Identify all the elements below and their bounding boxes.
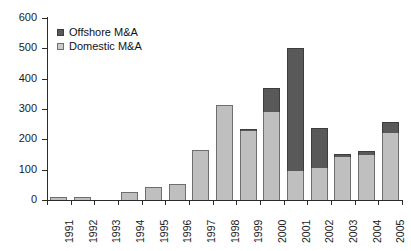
x-axis-tick (284, 201, 285, 205)
y-axis-label: 0 (0, 194, 37, 205)
bar-segment-offshore (382, 122, 399, 133)
x-axis-label-1998: 1998 (230, 220, 241, 243)
x-axis-label-1991: 1991 (64, 220, 75, 243)
bar-1995 (145, 187, 162, 200)
bar-segment-domestic (382, 133, 399, 200)
bar-1992 (74, 197, 91, 200)
bar-segment-domestic (311, 168, 328, 200)
bar-2002 (311, 128, 328, 200)
x-axis-label-2002: 2002 (324, 220, 335, 243)
x-axis-tick (236, 201, 237, 205)
x-axis-tick (47, 201, 48, 205)
legend-label-domestic: Domestic M&A (69, 41, 142, 52)
bar-2004 (358, 151, 375, 200)
bar-segment-domestic (192, 150, 209, 200)
x-axis-tick (260, 201, 261, 205)
x-axis-tick (118, 201, 119, 205)
x-axis-label-2004: 2004 (372, 220, 383, 243)
x-axis-label-1993: 1993 (111, 220, 122, 243)
bar-segment-offshore (311, 128, 328, 168)
legend-label-offshore: Offshore M&A (69, 27, 138, 38)
x-axis-line (47, 200, 403, 201)
bar-1991 (50, 197, 67, 200)
x-axis-tick (355, 201, 356, 205)
x-axis-label-1995: 1995 (159, 220, 170, 243)
x-axis-tick (165, 201, 166, 205)
bar-segment-domestic (74, 197, 91, 200)
bar-segment-domestic (145, 187, 162, 200)
bar-segment-domestic (240, 131, 257, 200)
x-axis-label-1997: 1997 (206, 220, 217, 243)
bar-1994 (121, 192, 138, 200)
bar-segment-domestic (121, 192, 138, 200)
bar-1996 (169, 184, 186, 200)
x-axis-label-1992: 1992 (88, 220, 99, 243)
x-axis-label-2000: 2000 (277, 220, 288, 243)
x-axis-label-1996: 1996 (182, 220, 193, 243)
bar-2000 (263, 88, 280, 200)
x-axis-tick (189, 201, 190, 205)
x-axis-tick (331, 201, 332, 205)
bar-2005 (382, 122, 399, 200)
x-axis-tick (94, 201, 95, 205)
x-axis-label-2003: 2003 (348, 220, 359, 243)
bar-1999 (240, 129, 257, 200)
legend-swatch-domestic-icon (57, 43, 64, 50)
bar-segment-domestic (287, 171, 304, 200)
bar-segment-domestic (216, 105, 233, 200)
x-axis-tick (142, 201, 143, 205)
bar-segment-domestic (50, 197, 67, 200)
bar-segment-offshore (287, 48, 304, 171)
x-axis-label-2005: 2005 (395, 220, 406, 243)
x-axis-tick (402, 201, 403, 205)
bar-segment-domestic (334, 157, 351, 200)
bar-2001 (287, 48, 304, 200)
x-axis-tick (378, 201, 379, 205)
bar-2003 (334, 154, 351, 200)
chart-legend: Offshore M&A Domestic M&A (57, 26, 142, 54)
legend-item-offshore: Offshore M&A (57, 26, 142, 39)
bar-segment-offshore (263, 88, 280, 112)
bar-segment-domestic (169, 184, 186, 200)
y-axis-label: 300 (0, 103, 37, 114)
x-axis-tick (71, 201, 72, 205)
bar-1997 (192, 150, 209, 200)
legend-swatch-offshore-icon (57, 29, 64, 36)
bar-1998 (216, 105, 233, 200)
bar-segment-domestic (263, 112, 280, 200)
x-axis-label-1999: 1999 (253, 220, 264, 243)
x-axis-tick (213, 201, 214, 205)
y-axis-label: 100 (0, 164, 37, 175)
bar-chart: 0100200300400500600 19911992199319941995… (0, 0, 411, 251)
y-axis-label: 200 (0, 133, 37, 144)
bar-segment-domestic (358, 155, 375, 200)
y-axis-label: 500 (0, 42, 37, 53)
y-axis-label: 400 (0, 73, 37, 84)
x-axis-label-2001: 2001 (301, 220, 312, 243)
x-axis-label-1994: 1994 (135, 220, 146, 243)
y-axis-label: 600 (0, 12, 37, 23)
legend-item-domestic: Domestic M&A (57, 40, 142, 53)
x-axis-tick (307, 201, 308, 205)
